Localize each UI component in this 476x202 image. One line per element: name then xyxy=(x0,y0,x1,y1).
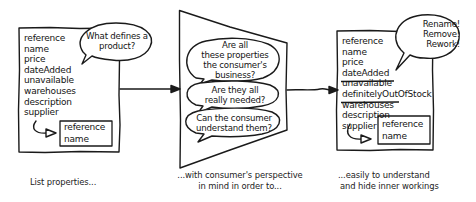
property-item: unavailable xyxy=(24,75,76,86)
property-item: price xyxy=(24,54,76,65)
caption-filter: ...with consumer's perspective in mind i… xyxy=(170,170,310,192)
property-item: dateAdded xyxy=(342,68,432,79)
right-property-list: reference name price dateAdded unavailab… xyxy=(342,36,432,131)
nested-item: name xyxy=(382,131,423,142)
right-bubble-text: Rename! Remove! Rework! xyxy=(410,19,460,49)
left-supplier-arrow xyxy=(34,121,47,133)
property-item: name xyxy=(24,44,76,55)
nested-item: name xyxy=(64,134,105,145)
left-property-list: reference name price dateAdded unavailab… xyxy=(24,33,76,118)
property-item: description xyxy=(24,97,76,108)
caption-list: List properties... xyxy=(30,177,96,188)
property-item: warehouses xyxy=(24,86,76,97)
property-item-removed: warehouses xyxy=(342,100,432,111)
filter-bubble-3-text: Can the consumer understand them? xyxy=(188,113,280,133)
nested-item: reference xyxy=(64,122,105,133)
nested-item: reference xyxy=(382,119,423,130)
arrow-list-to-filter-head xyxy=(171,86,180,93)
caption-result: ...easily to understand and hide inner w… xyxy=(338,170,439,192)
right-nested-list: reference name xyxy=(382,119,423,141)
left-bubble-text: What defines a product? xyxy=(86,31,148,51)
property-item: definitelyOutOfStock xyxy=(342,89,432,100)
property-item: price xyxy=(342,57,432,68)
arrow-filter-to-result xyxy=(287,89,331,90)
filter-bubble-1-text: Are all these properties the consumer's … xyxy=(190,40,280,80)
property-item: reference xyxy=(24,33,76,44)
property-item-removed: unavailable xyxy=(342,78,432,89)
property-item: dateAdded xyxy=(24,65,76,76)
right-supplier-arrowhead xyxy=(361,135,371,143)
filter-bubble-2-text: Are they all really needed? xyxy=(190,85,280,105)
left-nested-list: reference name xyxy=(64,122,105,144)
left-supplier-arrowhead xyxy=(46,129,56,137)
property-item: supplier xyxy=(24,107,76,118)
